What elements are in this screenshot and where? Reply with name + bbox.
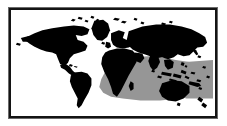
world-map (13, 12, 213, 114)
figure-title: World map with shaded highlight region (0, 0, 1, 1)
map-frame-mat (11, 10, 215, 116)
map-frame (9, 8, 217, 118)
highlight-region-label: Indian Ocean and Western Pacific shaded … (0, 0, 1, 1)
highlight-band-tail (186, 60, 213, 98)
figure-root: World map with shaded highlight region I… (0, 0, 227, 126)
